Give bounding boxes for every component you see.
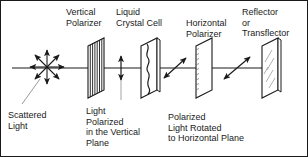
liquid-crystal-cell-edge [157,38,160,92]
label-horizontal-polarizer: HorizontalPolarizer [186,18,227,39]
label-scattered-light: ScatteredLight [8,110,47,131]
scattered-light-starburst [30,50,64,84]
horizontal-polarizer-panel [196,38,212,98]
label-scattered-light-line-2: Light [8,121,28,131]
label-liquid-crystal-cell-line-1: Liquid [116,7,140,17]
reflector-edge [278,38,281,92]
label-reflector-line-1: Reflector [242,7,278,17]
label-reflector-line-2: or [242,18,250,28]
lcd-optical-path-diagram: VerticalPolarizer LiquidCrystal Cell Hor… [0,0,308,157]
label-reflector-or-transflector: ReflectororTransflector [242,7,289,39]
label-polarized-light-rotated-line-3: to Horizontal Plane [168,133,244,143]
vertical-polarizer-panel [88,38,104,98]
label-scattered-light-line-1: Scattered [8,110,47,120]
label-vertical-polarizer: VerticalPolarizer [66,7,102,28]
reflector-panel [262,38,281,98]
label-reflector-line-3: Transflector [242,28,289,38]
label-horizontal-polarizer-line-1: Horizontal [186,18,227,28]
label-light-polarized-vertical-line-3: in the Vertical [86,127,140,137]
label-polarized-light-rotated-line-2: Light Rotated [168,123,222,133]
liquid-crystal-cell-panel [141,38,160,98]
label-horizontal-polarizer-line-2: Polarizer [186,29,222,39]
label-light-polarized-vertical-line-1: Light [86,106,106,116]
label-liquid-crystal-cell: LiquidCrystal Cell [116,7,162,28]
label-vertical-polarizer-line-2: Polarizer [66,18,102,28]
label-polarized-light-rotated: PolarizedLight Rotatedto Horizontal Plan… [168,112,244,144]
label-light-polarized-vertical-line-2: Polarized [86,117,124,127]
label-light-polarized-vertical: LightPolarizedin the VerticalPlane [86,106,140,148]
reflector-face [262,38,278,98]
label-vertical-polarizer-line-1: Vertical [66,7,96,17]
label-liquid-crystal-cell-line-2: Crystal Cell [116,18,162,28]
label-light-polarized-vertical-line-4: Plane [86,138,109,148]
label-polarized-light-rotated-line-1: Polarized [168,112,206,122]
